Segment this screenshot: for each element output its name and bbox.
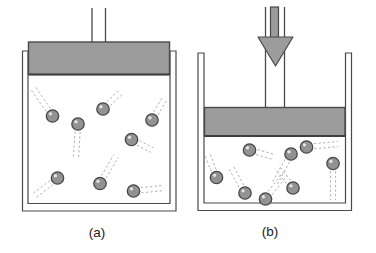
gas-particle xyxy=(243,144,255,156)
gas-particle xyxy=(146,114,158,126)
particle-highlight xyxy=(49,112,52,115)
motion-trail xyxy=(36,182,57,198)
particle-highlight xyxy=(289,184,292,187)
gas-particle xyxy=(239,187,251,199)
particle-highlight xyxy=(96,180,99,183)
motion-trail xyxy=(252,153,274,159)
motion-trail xyxy=(229,168,242,191)
gas-particle xyxy=(51,172,63,184)
particle-highlight xyxy=(246,146,249,149)
particle-highlight xyxy=(241,189,244,192)
piston xyxy=(29,42,170,75)
gas-particle xyxy=(259,193,271,205)
motion-trail xyxy=(233,166,246,189)
motion-trail xyxy=(279,165,293,184)
motion-trail xyxy=(136,185,164,188)
particle-highlight xyxy=(54,174,57,177)
piston xyxy=(205,108,346,137)
panel-b-label: (b) xyxy=(262,224,279,239)
motion-trail xyxy=(253,148,275,154)
gas-particle xyxy=(125,133,137,145)
piston-gas-figure: (a) (b) xyxy=(0,0,376,253)
gas-particle xyxy=(97,103,109,115)
motion-trail xyxy=(31,89,49,115)
motion-trail xyxy=(32,178,53,194)
motion-trail xyxy=(99,155,113,180)
particle-highlight xyxy=(74,120,77,123)
motion-trail xyxy=(309,141,338,144)
motion-trail xyxy=(310,147,339,150)
motion-trail xyxy=(151,97,162,116)
force-arrow-shaft xyxy=(271,7,279,39)
particle-highlight xyxy=(262,195,265,198)
motion-trail xyxy=(275,169,289,188)
motion-trail xyxy=(277,158,292,184)
panel-a-label: (a) xyxy=(89,225,106,240)
particle-highlight xyxy=(148,116,151,119)
particle-highlight xyxy=(303,143,306,146)
gas-particle xyxy=(127,185,139,197)
particle-highlight xyxy=(130,187,133,190)
gas-particle xyxy=(300,141,312,153)
gas-particle xyxy=(287,182,299,194)
motion-trail xyxy=(273,155,288,181)
particle-highlight xyxy=(287,150,290,153)
gas-particle xyxy=(72,118,84,130)
gas-particle xyxy=(210,171,222,183)
force-arrow-head xyxy=(258,37,293,66)
particle-highlight xyxy=(99,105,102,108)
particle-highlight xyxy=(213,174,216,177)
gas-particle xyxy=(327,157,339,169)
figure-canvas: (a) (b) xyxy=(0,0,376,253)
motion-trail xyxy=(73,127,75,157)
motion-trail xyxy=(79,127,81,157)
particle-highlight xyxy=(329,160,332,163)
panel-a xyxy=(23,8,177,211)
motion-trail xyxy=(137,191,165,194)
particle-highlight xyxy=(128,136,131,139)
gas-particle xyxy=(46,110,58,122)
motion-trail xyxy=(104,157,118,182)
panel-b xyxy=(198,7,352,211)
motion-trail xyxy=(156,99,167,118)
gas-particle xyxy=(94,177,106,189)
motion-trail xyxy=(205,154,213,176)
gas-particle xyxy=(285,148,297,160)
